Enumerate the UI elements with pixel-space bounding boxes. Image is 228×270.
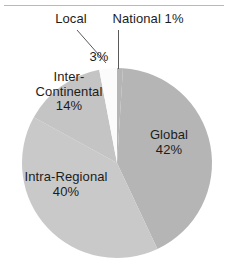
pie-label-inter-continental: Inter- Continental 14% <box>30 70 108 114</box>
pie-label-national: National 1% <box>100 12 196 27</box>
pie-value-global: 42% <box>140 143 198 158</box>
pie-value-local: 3% <box>82 50 116 65</box>
pie-label-local: Local <box>44 12 98 27</box>
pie-value-inter-continental: 14% <box>30 99 108 114</box>
pie-chart-figure: Local National 1% 3% Inter- Continental … <box>0 0 228 270</box>
pie-label-global: Global 42% <box>140 128 198 157</box>
pie-value-intra-regional: 40% <box>8 185 124 200</box>
pie-label-inter-continental-line2: Continental <box>30 85 108 100</box>
pie-label-global-name: Global <box>140 128 198 143</box>
pie-label-intra-regional-name: Intra-Regional <box>8 170 124 185</box>
pie-label-inter-continental-line1: Inter- <box>30 70 108 85</box>
pie-label-intra-regional: Intra-Regional 40% <box>8 170 124 199</box>
